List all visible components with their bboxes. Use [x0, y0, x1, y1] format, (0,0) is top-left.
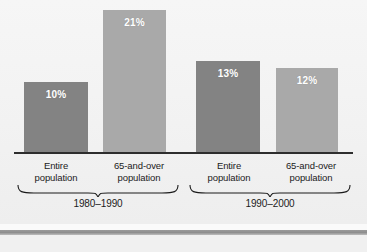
group-1: 1980–1990 — [16, 185, 180, 210]
category-label-4-line1: 65-and-over — [286, 160, 336, 171]
group-period-label-1: 1980–1990 — [16, 198, 180, 210]
category-label-2: 65-and-over population — [96, 160, 182, 183]
category-label-2-line1: 65-and-over — [114, 160, 164, 171]
plot-area: 10% 21% 13% 12% Entire population 65-and… — [0, 0, 367, 224]
group-brace-icon-2 — [188, 185, 352, 197]
category-label-1-line1: Entire — [44, 160, 68, 171]
category-label-1: Entire population — [14, 160, 98, 183]
footer-area: th — [0, 235, 367, 252]
category-label-4-line2: population — [268, 172, 354, 184]
group-2: 1990–2000 — [188, 185, 352, 210]
bar-3: 13% — [196, 61, 260, 153]
group-brace-icon-1 — [16, 185, 180, 197]
bar-value-2: 21% — [103, 17, 166, 28]
bar-2: 21% — [103, 10, 166, 153]
axis-baseline — [14, 152, 353, 154]
category-label-3-line1: Entire — [217, 160, 241, 171]
bar-value-3: 13% — [196, 68, 260, 79]
category-label-3: Entire population — [187, 160, 271, 183]
category-label-3-line2: population — [187, 172, 271, 184]
group-period-label-2: 1990–2000 — [188, 198, 352, 210]
bar-4: 12% — [276, 68, 338, 153]
bar-value-1: 10% — [24, 89, 88, 100]
chart-page: 10% 21% 13% 12% Entire population 65-and… — [0, 0, 367, 252]
bar-value-4: 12% — [276, 75, 338, 86]
bar-1: 10% — [24, 82, 88, 153]
category-label-2-line2: population — [96, 172, 182, 184]
category-label-1-line2: population — [14, 172, 98, 184]
category-label-4: 65-and-over population — [268, 160, 354, 183]
